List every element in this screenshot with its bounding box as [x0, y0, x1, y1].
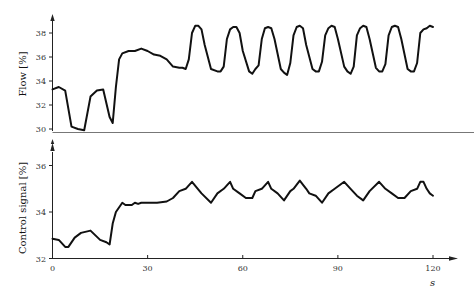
control-series-line: [53, 181, 434, 247]
x-tick-label: 120: [425, 264, 440, 273]
control-y-tick-label: 36: [36, 162, 46, 171]
flow-plot: 3032343638 Flow [%]: [17, 14, 474, 144]
control-y-tick-label: 32: [36, 255, 46, 264]
x-axis-arrow-icon: [449, 256, 458, 261]
flow-y-tick-label: 34: [36, 77, 46, 86]
control-y-ticks: 323436: [36, 162, 53, 264]
control-y-label: Control signal [%]: [17, 162, 28, 254]
control-y-tick-label: 34: [36, 208, 46, 217]
chart-canvas: 3032343638 Flow [%] 323436 0306090120 Co…: [0, 0, 474, 297]
x-tick-label: 90: [333, 264, 343, 273]
flow-y-ticks: 3032343638: [36, 29, 53, 134]
flow-series-line: [53, 26, 434, 130]
x-tick-label: 0: [50, 264, 55, 273]
flow-y-tick-label: 30: [36, 125, 46, 134]
x-tick-label: 60: [238, 264, 248, 273]
x-ticks: 0306090120: [50, 255, 441, 273]
control-plot: 323436 0306090120 Control signal [%] s: [17, 143, 458, 288]
flow-y-tick-label: 36: [36, 53, 46, 62]
flow-y-tick-label: 32: [36, 101, 46, 110]
x-tick-label: 30: [143, 264, 153, 273]
x-unit-label: s: [430, 277, 435, 288]
flow-y-label: Flow [%]: [17, 51, 28, 96]
control-y-axis-arrow-icon: [50, 143, 54, 151]
flow-y-axis-arrow-icon: [50, 14, 54, 21]
flow-y-tick-label: 38: [36, 29, 46, 38]
